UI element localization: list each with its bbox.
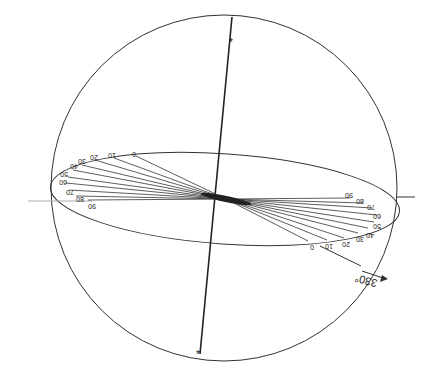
svg-text:20: 20: [90, 154, 98, 161]
arrow-head-icon: [380, 275, 388, 282]
vertical-diameter: [200, 17, 232, 354]
svg-text:90: 90: [88, 203, 96, 210]
svg-text:60: 60: [373, 213, 381, 220]
projection-svg: * *: [0, 0, 445, 371]
svg-text:30: 30: [78, 158, 86, 165]
svg-text:40: 40: [366, 232, 374, 239]
svg-text:90: 90: [345, 192, 353, 199]
svg-text:40: 40: [70, 163, 78, 170]
azimuth-330-line: [320, 246, 361, 266]
primitive-circle: [51, 15, 397, 361]
svg-text:70: 70: [367, 204, 375, 211]
svg-text:50: 50: [373, 223, 381, 230]
bottom-asterisk-marker: *: [196, 349, 200, 360]
diagram-canvas: * *: [0, 0, 445, 371]
svg-text:0: 0: [132, 151, 136, 158]
svg-text:80: 80: [76, 196, 84, 203]
svg-text:10: 10: [108, 152, 116, 159]
svg-text:30: 30: [356, 236, 364, 243]
svg-text:70: 70: [66, 189, 74, 196]
svg-text:20: 20: [342, 241, 350, 248]
svg-text:80: 80: [356, 198, 364, 205]
svg-text:0: 0: [310, 244, 314, 251]
top-asterisk-marker: *: [229, 37, 233, 48]
svg-text:50: 50: [60, 171, 68, 178]
svg-text:60: 60: [59, 179, 67, 186]
